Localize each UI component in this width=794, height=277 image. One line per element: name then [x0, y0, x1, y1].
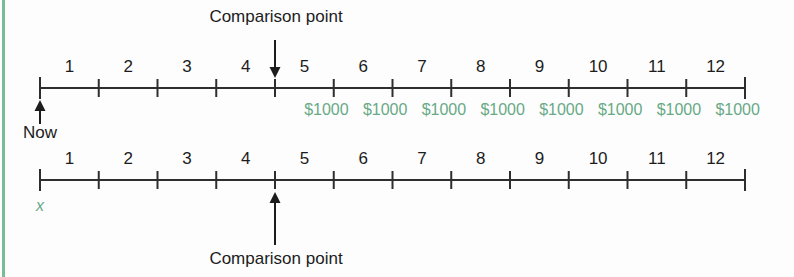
bottom-period-label-7: 7 [417, 150, 426, 167]
comparison-point-arrow-top-head [270, 67, 281, 78]
top-period-label-3: 3 [182, 58, 191, 75]
top-period-label-6: 6 [358, 58, 367, 75]
bottom-period-label-9: 9 [535, 150, 544, 167]
comparison-point-label-bottom: Comparison point [209, 250, 342, 267]
top-period-label-11: 11 [648, 58, 666, 75]
bottom-period-label-1: 1 [65, 150, 74, 167]
cash-flow-label-t7: $1000 [422, 102, 467, 118]
bottom-period-label-3: 3 [182, 150, 191, 167]
timeline-figure: Comparison point 123456789101112 $1000$1… [0, 0, 794, 277]
bottom-period-label-11: 11 [648, 150, 666, 167]
bottom-period-label-6: 6 [358, 150, 367, 167]
bottom-period-label-8: 8 [476, 150, 485, 167]
top-period-label-12: 12 [706, 58, 725, 75]
cash-flow-label-t5: $1000 [304, 102, 349, 118]
top-period-label-9: 9 [535, 58, 544, 75]
top-period-label-7: 7 [417, 58, 426, 75]
comparison-point-label-top: Comparison point [209, 8, 342, 25]
cash-flow-label-t6: $1000 [363, 102, 408, 118]
cash-flow-label-t9: $1000 [539, 102, 584, 118]
bottom-period-label-2: 2 [123, 150, 132, 167]
left-green-rule [2, 0, 5, 277]
bottom-period-label-4: 4 [241, 150, 250, 167]
bottom-period-label-10: 10 [589, 150, 608, 167]
now-label: Now [23, 124, 57, 141]
now-arrow-head [35, 100, 46, 111]
top-period-label-5: 5 [300, 58, 309, 75]
cash-flow-label-t8: $1000 [480, 102, 525, 118]
cash-flow-label-t10: $1000 [598, 102, 643, 118]
top-period-label-2: 2 [123, 58, 132, 75]
cash-flow-label-t12: $1000 [715, 102, 760, 118]
top-period-label-4: 4 [241, 58, 250, 75]
cash-flow-label-t11: $1000 [657, 102, 702, 118]
top-period-label-10: 10 [589, 58, 608, 75]
bottom-period-label-5: 5 [300, 150, 309, 167]
bottom-period-label-12: 12 [706, 150, 725, 167]
comparison-point-arrow-bottom-head [270, 192, 281, 203]
timeline-axes-graphic [0, 0, 794, 277]
top-period-label-8: 8 [476, 58, 485, 75]
top-period-label-1: 1 [65, 58, 74, 75]
unknown-x-label: x [36, 198, 44, 214]
